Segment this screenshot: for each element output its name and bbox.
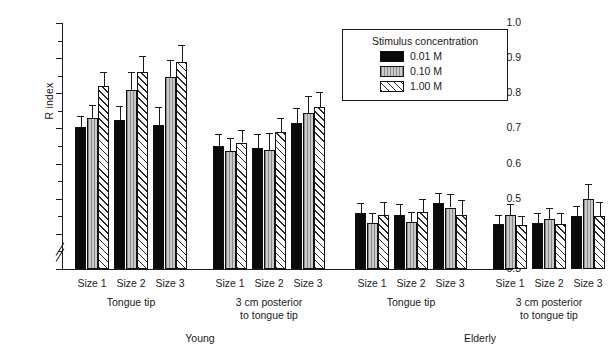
location-label: Tongue tip [351,296,471,309]
bar [367,223,378,269]
error-bar-cap [178,45,185,46]
bar [275,132,286,269]
error-bar [170,60,171,78]
error-bar-cap [435,193,442,194]
bar [594,216,605,269]
error-bar-cap [585,184,592,185]
error-bar-cap [458,200,465,201]
bar [98,86,109,269]
bar [87,118,98,269]
legend-swatch-2 [380,81,404,92]
error-bar-cap [408,212,415,213]
y-axis-label: R index [43,56,55,146]
y-tick-major [56,128,62,129]
error-bar-cap [495,215,502,216]
error-bar-cap [316,92,323,93]
bar [291,123,302,269]
error-bar-cap [89,105,96,106]
bar [555,224,566,269]
error-bar [384,202,385,214]
y-tick-major [56,164,62,165]
error-bar-cap [116,106,123,107]
y-tick-major [56,93,62,94]
error-bar [549,208,550,219]
error-bar-cap [419,199,426,200]
error-bar-cap [557,213,564,214]
y-tick-minor [58,76,62,77]
y-tick-minor [58,251,62,252]
error-bar-cap [254,134,261,135]
error-bar [561,213,562,224]
bar [137,72,148,269]
error-bar-cap [507,204,514,205]
age-group-label: Elderly [430,332,530,344]
error-bar-cap [167,60,174,61]
bar [126,90,137,269]
error-bar [159,107,160,125]
error-bar [522,216,523,225]
legend-item-label: 0.01 M [410,50,442,62]
legend-item: 1.00 M [343,80,507,92]
error-bar-cap [369,213,376,214]
error-bar [600,202,601,216]
error-bar-cap [238,130,245,131]
error-bar-cap [100,72,107,73]
size-tick-label: Size 3 [282,277,334,289]
error-bar [104,72,105,86]
bar [544,219,555,269]
legend-item: 0.01 M [343,50,507,62]
bar [505,215,516,269]
bar [571,216,582,269]
location-label-line: 3 cm posterior [489,296,609,309]
size-tick-label: Size 3 [144,277,196,289]
bar [165,77,176,269]
bar [433,203,444,269]
error-bar [588,184,589,200]
y-tick-minor [58,181,62,182]
error-bar [131,72,132,90]
error-bar [577,206,578,217]
error-bar-cap [546,208,553,209]
error-bar [450,194,451,207]
bar [153,125,164,269]
y-tick-minor [58,111,62,112]
error-bar [510,204,511,215]
error-bar-cap [396,204,403,205]
y-tick-minor [58,146,62,147]
legend-item-label: 1.00 M [410,80,442,92]
bar [252,148,263,269]
bar [456,215,467,269]
legend-item: 0.10 M [343,65,507,77]
y-tick-major [56,23,62,24]
error-bar [320,92,321,108]
error-bar [219,134,220,146]
bar [417,212,428,269]
error-bar [361,203,362,214]
location-label-line: 3 cm posterior [209,296,329,309]
error-bar [400,204,401,215]
bar [583,199,594,269]
size-tick-label: Size 3 [424,277,476,289]
location-label: Tongue tip [71,296,191,309]
y-tick-major [56,269,62,270]
bar [264,150,275,269]
bar [303,113,314,269]
error-bar-cap [518,216,525,217]
bar [394,215,405,269]
error-bar [120,106,121,120]
bar [532,223,543,269]
error-bar [281,118,282,132]
bar [445,208,456,270]
y-tick-minor [58,41,62,42]
legend: Stimulus concentration 0.01 M0.10 M1.00 … [342,29,508,101]
error-bar-cap [77,116,84,117]
bar [378,215,389,269]
error-bar-cap [227,138,234,139]
location-label: 3 cm posteriorto tongue tip [209,296,329,321]
legend-swatch-1 [380,66,404,77]
location-label-line: Tongue tip [351,296,471,309]
location-label-line: Tongue tip [71,296,191,309]
error-bar [308,96,309,113]
error-bar-cap [534,213,541,214]
